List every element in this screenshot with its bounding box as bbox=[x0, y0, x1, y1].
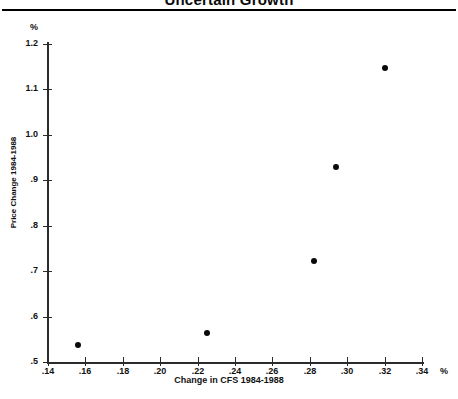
x-axis-title: Change in CFS 1984-1988 bbox=[0, 375, 458, 385]
scatter-chart-figure: Uncertain Growth % % Price Change 1984-1… bbox=[0, 0, 458, 399]
y-tick-label: .7 bbox=[8, 265, 38, 275]
x-tick-label: .28 bbox=[293, 366, 327, 376]
x-tick-mark bbox=[235, 357, 236, 366]
x-tick-label: .20 bbox=[143, 366, 177, 376]
y-tick-label: 1.1 bbox=[8, 83, 38, 93]
x-tick-mark bbox=[422, 357, 423, 366]
x-tick-mark bbox=[347, 357, 348, 366]
y-tick-label: 1.0 bbox=[8, 129, 38, 139]
x-tick-mark bbox=[385, 357, 386, 366]
x-tick-mark bbox=[48, 357, 49, 366]
x-tick-label: .16 bbox=[68, 366, 102, 376]
x-tick-mark bbox=[310, 357, 311, 366]
y-tick-mark bbox=[43, 89, 52, 90]
y-tick-mark bbox=[43, 180, 52, 181]
x-tick-label: .18 bbox=[106, 366, 140, 376]
x-tick-mark bbox=[160, 357, 161, 366]
x-tick-label: .14 bbox=[31, 366, 65, 376]
y-tick-mark bbox=[43, 135, 52, 136]
title-divider bbox=[2, 9, 456, 11]
x-tick-label: .32 bbox=[368, 366, 402, 376]
y-tick-label: 1.2 bbox=[8, 38, 38, 48]
data-point bbox=[333, 164, 339, 170]
data-point bbox=[75, 342, 81, 348]
x-tick-label: .24 bbox=[218, 366, 252, 376]
x-tick-label: .22 bbox=[181, 366, 215, 376]
y-tick-label: .9 bbox=[8, 174, 38, 184]
data-point bbox=[204, 330, 210, 336]
x-tick-label: .26 bbox=[255, 366, 289, 376]
y-tick-mark bbox=[43, 317, 52, 318]
y-axis-line bbox=[47, 42, 49, 364]
data-point bbox=[311, 258, 317, 264]
x-tick-mark bbox=[198, 357, 199, 366]
x-tick-label: .34 bbox=[405, 366, 439, 376]
y-tick-mark bbox=[43, 226, 52, 227]
x-tick-mark bbox=[85, 357, 86, 366]
y-tick-label: .8 bbox=[8, 220, 38, 230]
y-tick-mark bbox=[43, 271, 52, 272]
y-tick-mark bbox=[43, 44, 52, 45]
data-point bbox=[382, 65, 388, 71]
x-tick-label: .30 bbox=[330, 366, 364, 376]
chart-title: Uncertain Growth bbox=[0, 0, 458, 8]
x-tick-mark bbox=[123, 357, 124, 366]
y-tick-label: .6 bbox=[8, 311, 38, 321]
x-tick-mark bbox=[272, 357, 273, 366]
y-tick-label: .5 bbox=[8, 356, 38, 366]
y-axis-unit: % bbox=[30, 22, 38, 32]
